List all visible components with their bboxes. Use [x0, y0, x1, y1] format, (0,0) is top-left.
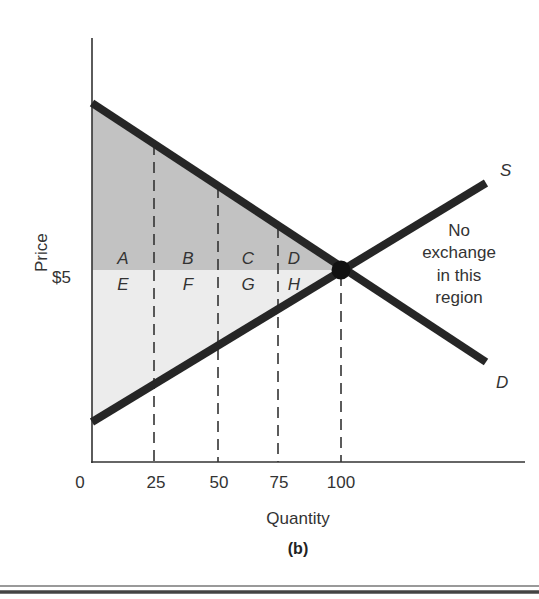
- area-label-b: B: [182, 249, 193, 268]
- x-tick-0: 0: [75, 473, 84, 492]
- area-label-d: D: [288, 249, 300, 268]
- area-label-f: F: [183, 275, 195, 294]
- note-line-1: No: [448, 221, 470, 240]
- price-tick-label: $5: [52, 268, 71, 287]
- x-tick-25: 25: [147, 473, 166, 492]
- area-label-g: G: [241, 275, 254, 294]
- note-line-2: exchange: [422, 243, 496, 262]
- y-axis-title: Price: [32, 233, 51, 272]
- figure-caption: (b): [288, 540, 308, 557]
- x-tick-50: 50: [210, 473, 229, 492]
- demand-label: D: [496, 373, 508, 392]
- surplus-diagram: A B C D E F G H $5 Price 0 25 50 75 100 …: [0, 0, 539, 599]
- area-label-c: C: [242, 249, 255, 268]
- equilibrium-point: [332, 261, 351, 280]
- x-tick-100: 100: [327, 473, 355, 492]
- no-exchange-note: No exchange in this region: [422, 221, 496, 307]
- note-line-4: region: [435, 288, 482, 307]
- x-tick-75: 75: [270, 473, 289, 492]
- area-label-a: A: [116, 249, 128, 268]
- area-label-h: H: [288, 275, 301, 294]
- x-axis-title: Quantity: [266, 509, 330, 528]
- note-line-3: in this: [437, 266, 481, 285]
- area-label-e: E: [117, 275, 129, 294]
- supply-label: S: [500, 161, 512, 180]
